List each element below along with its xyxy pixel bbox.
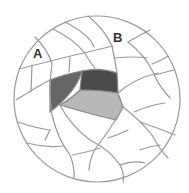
line [18, 122, 50, 130]
line [140, 122, 175, 135]
line [152, 56, 168, 64]
line [108, 130, 128, 138]
segmented-circle-diagram [0, 0, 189, 193]
line [128, 30, 150, 42]
line [69, 57, 70, 72]
line [53, 29, 96, 70]
label-a: A [33, 47, 42, 60]
line [134, 103, 165, 112]
line [120, 162, 145, 165]
label-b: B [113, 31, 122, 44]
line [114, 57, 147, 58]
line [72, 148, 100, 155]
line [27, 143, 63, 147]
region-top-right-darkest [80, 69, 118, 93]
line [16, 80, 50, 100]
line [45, 130, 50, 140]
line [140, 145, 160, 150]
line [118, 73, 158, 93]
line [123, 107, 168, 158]
line [65, 22, 94, 47]
line [31, 65, 32, 92]
